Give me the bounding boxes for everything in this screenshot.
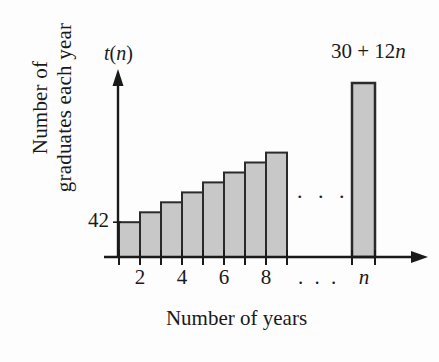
bar-7 [245, 163, 266, 258]
y-axis-function-symbol: t(n) [104, 42, 133, 65]
bar-6 [224, 173, 245, 258]
y-tick-label-42: 42 [88, 208, 109, 233]
bar-8 [266, 153, 287, 257]
bar-3 [161, 202, 182, 257]
bars-group [119, 83, 375, 257]
function-arg: n [116, 42, 126, 64]
x-tick-label-2: 2 [127, 265, 153, 290]
figure-bar-chart: Number of graduates each year [0, 0, 439, 362]
formula-variable: n [395, 39, 406, 63]
bar-4 [182, 192, 203, 257]
formula-annotation: 30 + 12n [331, 39, 406, 64]
x-tick-label-ellipsis: . . . [298, 265, 339, 290]
x-axis-title: Number of years [0, 306, 439, 331]
x-tick-label-n: n [351, 265, 377, 290]
x-tick-label-8: 8 [253, 265, 279, 290]
x-tick-label-4: 4 [169, 265, 195, 290]
paren-close: ) [126, 42, 133, 64]
bar-2 [140, 212, 161, 257]
bar-1 [119, 222, 140, 257]
formula-constant: 30 + 12 [331, 39, 395, 63]
bar-n [352, 83, 375, 257]
plot-ellipsis: . . . [297, 178, 350, 204]
bar-5 [203, 182, 224, 257]
x-tick-label-6: 6 [211, 265, 237, 290]
